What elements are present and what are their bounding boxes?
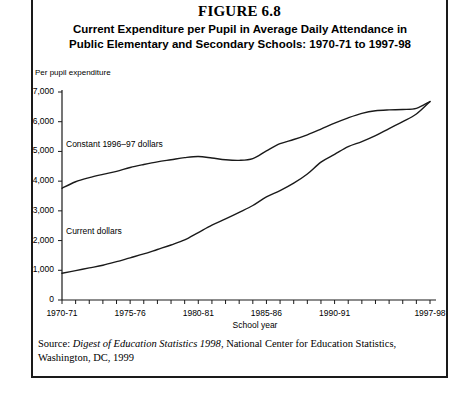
x-axis-title: School year (195, 320, 315, 330)
figure-title: Current Expenditure per Pupil in Average… (44, 22, 436, 52)
y-axis-tick-label: 5,000 (14, 145, 54, 155)
x-axis-tick-label: 1975-76 (95, 308, 165, 318)
x-axis-tick-label: 1985-86 (231, 308, 301, 318)
source-line-2: Washington, DC, 1999 (38, 352, 134, 363)
y-axis-tick-label: 2,000 (14, 235, 54, 245)
y-axis-tick-label: 4,000 (14, 175, 54, 185)
x-axis-tick-label: 1980-81 (163, 308, 233, 318)
source-prefix: Source: (38, 338, 73, 349)
y-axis-title: Per pupil expenditure (35, 68, 111, 77)
x-axis-tick-label: 1990-91 (300, 308, 370, 318)
figure-title-line-1: Current Expenditure per Pupil in Average… (44, 22, 436, 37)
source-rest: , National Center for Education Statisti… (221, 338, 396, 349)
y-axis-tick-label: 3,000 (14, 205, 54, 215)
source-note: Source: Digest of Education Statistics 1… (38, 337, 438, 365)
figure-title-line-2: Public Elementary and Secondary Schools:… (44, 37, 436, 52)
series-label-constant-dollars: Constant 1996–97 dollars (66, 139, 163, 149)
y-axis-tick-label: 7,000 (14, 86, 54, 96)
x-axis-tick-label: 1970-71 (27, 308, 97, 318)
y-axis-tick-label: 0 (14, 294, 54, 304)
source-publication: Digest of Education Statistics 1998 (73, 338, 221, 349)
x-axis-tick-label: 1997-98 (395, 308, 460, 318)
series-label-current-dollars: Current dollars (66, 226, 122, 236)
y-axis-tick-label: 6,000 (14, 116, 54, 126)
y-axis-tick-label: 1,000 (14, 264, 54, 274)
figure-number: FIGURE 6.8 (31, 3, 448, 20)
